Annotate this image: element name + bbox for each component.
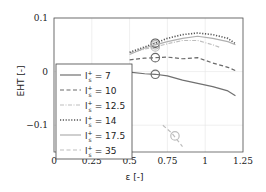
x-tick-label: 1 xyxy=(202,156,208,166)
y-axis-label: EHT [-] xyxy=(16,65,26,96)
line-chart: 00.250.50.7511.25 0.10−0.1 ε [-] EHT [-]… xyxy=(0,0,266,192)
x-axis-label: ε [-] xyxy=(126,172,144,182)
y-tick-label: 0.1 xyxy=(34,13,48,23)
legend-label: l+s= 7 xyxy=(85,69,111,83)
y-tick-label: −0.1 xyxy=(26,120,48,130)
highlight-marker xyxy=(171,132,179,140)
series-layer xyxy=(130,33,236,147)
legend-label: l+s= 14 xyxy=(85,114,117,128)
legend-label: l+s= 35 xyxy=(85,144,117,158)
series-line xyxy=(130,36,236,54)
y-tick-label: 0 xyxy=(42,67,48,77)
x-tick-label: 1.25 xyxy=(233,156,253,166)
x-tick-label: 0.75 xyxy=(157,156,177,166)
series-line xyxy=(163,125,183,146)
legend-label: l+s= 17.5 xyxy=(85,129,125,143)
series-line xyxy=(130,70,236,96)
legend-label: l+s= 10 xyxy=(85,84,117,98)
y-axis-ticks: 0.10−0.1 xyxy=(26,13,48,130)
legend: l+s= 7l+s= 10l+s= 12.5l+s= 14l+s= 17.5l+… xyxy=(56,64,132,159)
legend-label: l+s= 12.5 xyxy=(85,99,125,113)
series-line xyxy=(130,53,236,70)
